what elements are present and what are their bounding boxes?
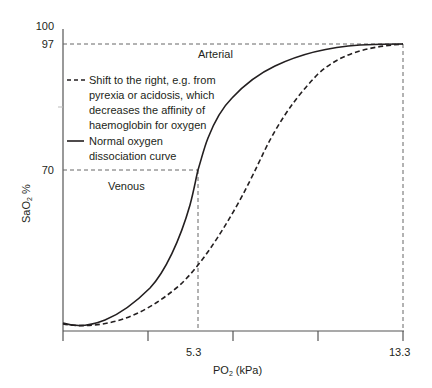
y-axis-label: SaO2 %	[20, 184, 33, 223]
x-tick-5.3: 5.3	[186, 346, 201, 359]
legend-dashed-text: Shift to the right, e.g. from pyrexia or…	[89, 73, 216, 133]
x-tick-13.3: 13.3	[389, 346, 410, 359]
y-tick-100: 100	[14, 20, 54, 33]
x-ticks	[63, 331, 403, 341]
venous-label: Venous	[108, 180, 145, 193]
arterial-label: Arterial	[198, 48, 233, 61]
x-axis-label: PO2 (kPa)	[213, 364, 262, 380]
y-tick-97: 97	[14, 38, 54, 51]
y-tick-70: 70	[14, 164, 54, 177]
legend-solid-text: Normal oxygen dissociation curve	[89, 134, 176, 164]
